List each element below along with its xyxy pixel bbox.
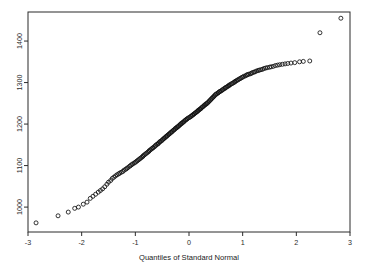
qq-plot-figure: -3-2-10123 10001100120013001400 Quantile… [0, 0, 368, 278]
x-tick-label: -1 [132, 238, 138, 247]
x-axis-title: Quantiles of Standard Normal [139, 253, 239, 262]
y-tick-label: 1200 [16, 116, 25, 132]
y-tick-label: 1000 [16, 199, 25, 215]
cropped-header-text [0, 0, 368, 8]
plot-canvas: -3-2-10123 10001100120013001400 Quantile… [0, 0, 368, 278]
y-tick-label: 1300 [16, 75, 25, 91]
x-tick-label: 1 [241, 238, 245, 247]
x-tick-label: -3 [25, 238, 31, 247]
y-tick-label: 1400 [16, 33, 25, 49]
x-tick-label: 3 [348, 238, 352, 247]
x-tick-label: 0 [187, 238, 191, 247]
plot-background [0, 0, 368, 278]
y-tick-label: 1100 [16, 158, 25, 173]
x-tick-label: 2 [294, 238, 298, 247]
x-tick-label: -2 [78, 238, 84, 247]
